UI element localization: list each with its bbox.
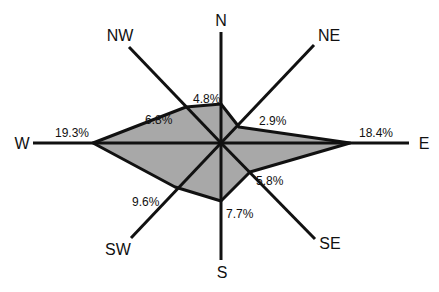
axes [33, 32, 409, 260]
wind-rose-chart: N NE E SE S SW W NW 4.8% 2.9% 18.4% 5.8%… [0, 0, 439, 292]
value-w: 19.3% [55, 126, 89, 140]
label-s: S [217, 264, 228, 281]
value-ne: 2.9% [259, 114, 287, 128]
label-se: SE [319, 235, 340, 252]
value-sw: 9.6% [132, 195, 160, 209]
label-e: E [419, 135, 430, 152]
label-nw: NW [107, 27, 135, 44]
value-se: 5.8% [256, 174, 284, 188]
value-n: 4.8% [193, 92, 221, 106]
value-nw: 6.8% [145, 113, 173, 127]
axis-ne [221, 45, 314, 143]
label-ne: NE [318, 27, 340, 44]
label-sw: SW [105, 241, 132, 258]
label-n: N [215, 12, 227, 29]
value-s: 7.7% [226, 207, 254, 221]
label-w: W [14, 135, 30, 152]
value-e: 18.4% [359, 126, 393, 140]
chart-canvas: N NE E SE S SW W NW 4.8% 2.9% 18.4% 5.8%… [0, 0, 439, 292]
